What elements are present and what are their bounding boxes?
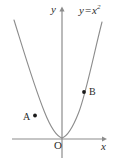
curve-equation-label: y=x2: [79, 5, 101, 16]
point-a-label: A: [23, 112, 30, 122]
equation-equals-sign: =: [84, 4, 92, 16]
origin-label: O: [54, 140, 62, 151]
point-b-marker: [82, 90, 86, 94]
equation-rhs-exponent: 2: [97, 3, 101, 11]
y-axis-arrowhead: [59, 7, 64, 12]
point-a-marker: [33, 114, 37, 118]
figure-canvas: [0, 0, 124, 158]
point-b-label: B: [89, 87, 96, 97]
parabola-figure: y x O y=x2 A B: [0, 0, 124, 158]
x-axis-label: x: [101, 141, 106, 152]
y-axis-label: y: [51, 4, 56, 15]
